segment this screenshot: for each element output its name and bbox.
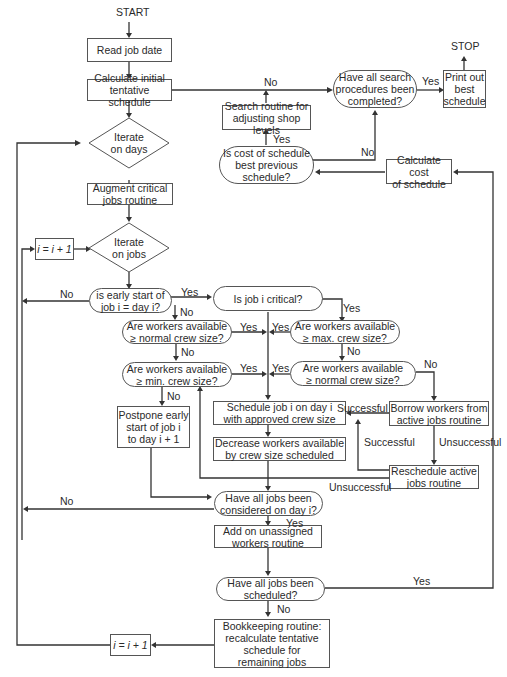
borrow-workers-box: Borrow workers from active jobs routine	[389, 401, 489, 426]
all-jobs-considered-decision: Have all jobs been considered on day i?	[214, 491, 323, 516]
calculate-cost-box: Calculate cost of schedule	[386, 159, 452, 184]
edge-label-no: No	[347, 345, 360, 357]
start-terminal: START	[116, 6, 149, 18]
edge-label-yes: Yes	[181, 286, 198, 298]
edge-label-yes: Yes	[343, 302, 360, 314]
all-jobs-scheduled-decision: Have all jobs been scheduled?	[216, 577, 325, 601]
edge-label-no: No	[361, 146, 374, 158]
min-crew-decision: Are workers available ≥ min. crew size?	[122, 362, 232, 387]
reschedule-active-jobs-box: Reschedule active jobs routine	[389, 465, 479, 489]
print-best-schedule-box: Print out best schedule	[443, 70, 486, 108]
augment-critical-jobs-box: Augment critical jobs routine	[87, 183, 173, 205]
edge-label-unsuccessful: Unsuccessful	[329, 481, 391, 493]
edge-label-yes: Yes	[240, 362, 257, 374]
add-unassigned-workers-box: Add on unassigned workers routine	[214, 525, 322, 548]
edge-label-yes: Yes	[272, 362, 289, 374]
postpone-early-start-box: Postpone early start of job i to day i +…	[117, 406, 190, 448]
calculate-initial-schedule-box: Calculate initial tentative schedule	[87, 79, 172, 101]
max-crew-decision: Are workers available ≥ max. crew size?	[290, 320, 400, 344]
increment-i-box-bottom: i = i + 1	[110, 634, 151, 656]
search-routine-box: Search routine for adjusting shop levels	[222, 105, 311, 130]
edge-label-no: No	[277, 603, 290, 615]
edge-label-successful: Successful	[337, 402, 388, 414]
edge-label-no: No	[60, 288, 73, 300]
normal-crew-right-decision: Are workers available ≥ normal crew size…	[290, 361, 416, 386]
job-critical-decision: Is job i critical?	[213, 286, 323, 311]
decrease-workers-box: Decrease workers available by crew size …	[213, 437, 346, 461]
search-procedures-complete-decision: Have all search procedures been complete…	[333, 70, 417, 108]
early-start-decision: is early start of job i = day i?	[89, 288, 172, 313]
edge-label-no: No	[167, 390, 180, 402]
edge-label-yes: Yes	[273, 133, 290, 145]
edge-label-no: No	[264, 76, 277, 88]
edge-label-yes: Yes	[286, 517, 303, 529]
iterate-days-label: Iterate on days	[89, 131, 169, 155]
edge-label-no: No	[60, 495, 73, 507]
iterate-jobs-label: Iterate on jobs	[89, 236, 169, 260]
stop-terminal: STOP	[451, 40, 479, 52]
edge-label-no: No	[180, 306, 193, 318]
edge-label-successful: Successful	[364, 436, 415, 448]
flowchart: START STOP Read job date Calculate initi…	[0, 0, 507, 677]
edge-label-yes: Yes	[272, 321, 289, 333]
schedule-job-box: Schedule job i on day i with approved cr…	[213, 401, 346, 425]
edge-label-yes: Yes	[240, 321, 257, 333]
increment-i-box-top: i = i + 1	[35, 238, 74, 260]
bookkeeping-routine-box: Bookkeeping routine: recalculate tentati…	[214, 619, 330, 668]
normal-crew-left-decision: Are workers available ≥ normal crew size…	[122, 320, 232, 344]
edge-label-no: No	[424, 358, 437, 370]
edge-label-no: No	[181, 346, 194, 358]
cost-best-decision: Is cost of schedule best previous schedu…	[219, 146, 314, 184]
edge-label-yes: Yes	[422, 75, 439, 87]
edge-label-unsuccessful: Unsuccessful	[439, 436, 501, 448]
read-job-date-box: Read job date	[87, 38, 172, 62]
edge-label-yes: Yes	[413, 575, 430, 587]
